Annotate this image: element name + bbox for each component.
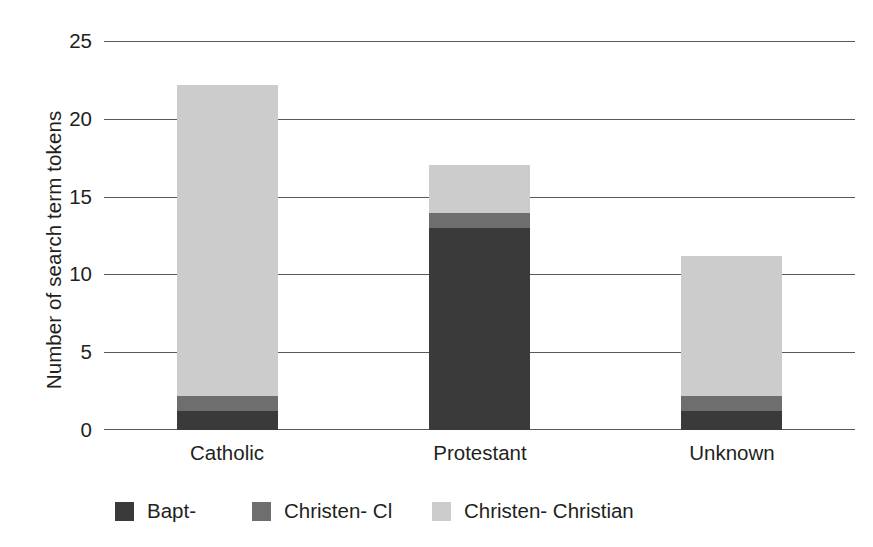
bar-segment-unknown-christen-cl[interactable] — [681, 396, 782, 412]
legend-swatch-christen-christian-icon — [432, 502, 451, 521]
gridline-25 — [104, 41, 855, 42]
y-tick-label-15: 15 — [40, 185, 92, 209]
bar-segment-catholic-christen-cl[interactable] — [177, 396, 278, 412]
y-tick-label-20: 20 — [40, 107, 92, 131]
plot-area — [104, 41, 855, 430]
legend-item-bapt[interactable]: Bapt- — [115, 496, 196, 526]
bar-segment-catholic-christen-christian[interactable] — [177, 85, 278, 395]
chart-legend: Bapt- Christen- Cl Christen- Christian — [0, 496, 873, 530]
bar-segment-catholic-bapt[interactable] — [177, 411, 278, 430]
bar-protestant[interactable] — [429, 165, 530, 430]
bar-segment-protestant-christen-christian[interactable] — [429, 165, 530, 213]
legend-swatch-bapt-icon — [115, 502, 134, 521]
bar-segment-unknown-bapt[interactable] — [681, 411, 782, 430]
y-tick-label-10: 10 — [40, 262, 92, 286]
x-tick-label-catholic: Catholic — [107, 441, 347, 465]
stacked-bar-chart-figure: Number of search term tokens 0 5 10 15 2… — [0, 0, 873, 547]
bar-catholic[interactable] — [177, 85, 278, 430]
x-tick-label-protestant: Protestant — [360, 441, 600, 465]
bar-unknown[interactable] — [681, 256, 782, 430]
y-tick-label-25: 25 — [40, 29, 92, 53]
y-tick-label-5: 5 — [40, 340, 92, 364]
bar-segment-unknown-christen-christian[interactable] — [681, 256, 782, 396]
legend-label-christen-christian: Christen- Christian — [464, 501, 634, 522]
legend-item-christen-christian[interactable]: Christen- Christian — [432, 496, 634, 526]
x-tick-label-unknown: Unknown — [612, 441, 852, 465]
bar-segment-protestant-christen-cl[interactable] — [429, 213, 530, 229]
y-tick-label-0: 0 — [40, 418, 92, 442]
bar-segment-protestant-bapt[interactable] — [429, 228, 530, 430]
legend-item-christen-cl[interactable]: Christen- Cl — [252, 496, 392, 526]
legend-label-bapt: Bapt- — [147, 501, 196, 522]
legend-label-christen-cl: Christen- Cl — [284, 501, 392, 522]
legend-swatch-christen-cl-icon — [252, 502, 271, 521]
